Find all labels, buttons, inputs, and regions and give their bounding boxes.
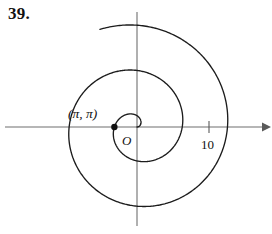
spiral-figure-svg: (π, π) O 10 (0, 0, 272, 234)
x-axis-tick-label-10: 10 (201, 137, 214, 152)
point-label-pi-pi: (π, π) (68, 106, 98, 121)
point-marker-pi-pi (111, 124, 117, 130)
figure-container: 39. (π, π) O 10 (0, 0, 272, 234)
x-axis-arrowhead (262, 123, 271, 132)
origin-label: O (122, 133, 132, 148)
